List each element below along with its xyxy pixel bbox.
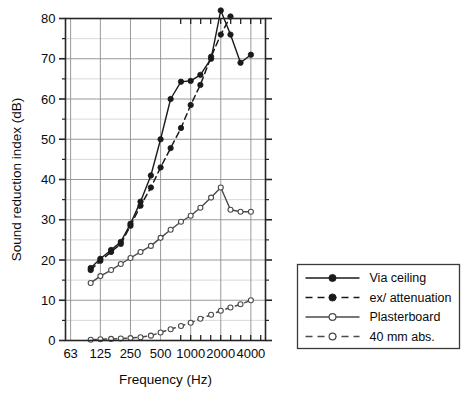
data-point-open: [238, 209, 243, 214]
legend-marker-open: [329, 314, 336, 321]
data-point-filled: [178, 79, 183, 84]
legend-label: Via ceiling: [370, 271, 427, 285]
data-point-open: [218, 185, 223, 190]
legend-marker-open: [329, 333, 336, 340]
data-point-open: [168, 327, 173, 332]
xtick-label: 250: [120, 346, 142, 361]
ytick-label: 60: [41, 92, 55, 107]
data-point-filled: [88, 267, 93, 272]
data-point-open: [109, 268, 114, 273]
data-point-filled: [168, 145, 173, 150]
data-point-open: [248, 209, 253, 214]
data-point-filled: [198, 72, 203, 77]
data-point-open: [168, 227, 173, 232]
data-point-open: [98, 274, 103, 279]
data-point-open: [238, 302, 243, 307]
data-point-filled: [218, 8, 223, 13]
series-line: [91, 300, 251, 339]
labels-layer: 0102030405060708063125250500100020004000…: [9, 11, 265, 386]
data-point-filled: [148, 173, 153, 178]
data-point-open: [209, 195, 214, 200]
data-point-filled: [208, 54, 213, 59]
data-point-open: [148, 333, 153, 338]
data-point-open: [178, 219, 183, 224]
grid-layer: [66, 19, 266, 341]
data-point-open: [198, 205, 203, 210]
legend-marker-filled: [329, 274, 336, 281]
x-axis-title: Frequency (Hz): [119, 372, 212, 387]
legend-label: 40 mm abs.: [370, 330, 435, 344]
data-point-filled: [118, 241, 123, 246]
data-point-filled: [148, 185, 153, 190]
data-point-open: [148, 243, 153, 248]
ytick-label: 40: [41, 172, 55, 187]
data-point-filled: [98, 258, 103, 263]
data-point-open: [128, 255, 133, 260]
data-point-filled: [188, 102, 193, 107]
data-point-open: [198, 316, 203, 321]
xtick-label: 125: [90, 346, 112, 361]
data-point-open: [188, 320, 193, 325]
legend-label: ex/ attenuation: [370, 291, 452, 305]
ytick-label: 80: [41, 11, 55, 26]
data-point-filled: [198, 82, 203, 87]
chart-figure: 0102030405060708063125250500100020004000…: [0, 0, 467, 405]
xtick-label: 500: [150, 346, 172, 361]
data-point-filled: [128, 223, 133, 228]
data-point-filled: [138, 203, 143, 208]
series-4: [88, 298, 253, 342]
data-point-open: [228, 207, 233, 212]
data-point-open: [178, 324, 183, 329]
ytick-label: 0: [48, 333, 55, 348]
data-point-open: [228, 305, 233, 310]
xtick-label: 63: [63, 346, 77, 361]
data-point-filled: [178, 125, 183, 130]
data-point-open: [158, 235, 163, 240]
ytick-label: 70: [41, 51, 55, 66]
data-point-open: [88, 280, 93, 285]
xtick-label: 1000: [176, 346, 205, 361]
data-point-open: [88, 337, 93, 342]
data-point-filled: [218, 32, 223, 37]
data-point-open: [118, 262, 123, 267]
legend: Via ceilingex/ attenuationPlasterboard40…: [298, 265, 460, 349]
ytick-label: 10: [41, 293, 55, 308]
data-point-filled: [158, 165, 163, 170]
data-point-open: [248, 298, 253, 303]
legend-label: Plasterboard: [370, 310, 441, 324]
xtick-label: 2000: [206, 346, 235, 361]
sound-reduction-index-chart: 0102030405060708063125250500100020004000…: [0, 0, 467, 405]
data-point-open: [138, 249, 143, 254]
data-point-open: [209, 312, 214, 317]
series-line: [91, 188, 251, 283]
data-point-open: [158, 330, 163, 335]
ytick-label: 30: [41, 212, 55, 227]
y-axis-title: Sound reduction index (dB): [9, 98, 24, 262]
data-point-open: [188, 213, 193, 218]
data-point-filled: [188, 78, 193, 83]
data-point-open: [218, 308, 223, 313]
ytick-label: 20: [41, 253, 55, 268]
data-point-open: [138, 335, 143, 340]
data-point-filled: [158, 137, 163, 142]
ytick-label: 50: [41, 132, 55, 147]
data-point-filled: [248, 52, 253, 57]
data-point-filled: [238, 60, 243, 65]
data-layer: [88, 8, 254, 342]
xtick-label: 4000: [236, 346, 265, 361]
data-point-filled: [108, 249, 113, 254]
legend-marker-filled: [329, 294, 336, 301]
data-point-filled: [168, 96, 173, 101]
series-3: [88, 185, 253, 285]
data-point-filled: [228, 32, 233, 37]
